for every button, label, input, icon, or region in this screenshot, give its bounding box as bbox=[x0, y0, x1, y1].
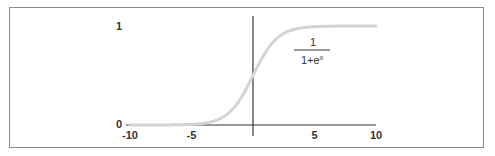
formula-denominator: 1+ex bbox=[301, 54, 324, 66]
x-tick-label-neg5: -5 bbox=[187, 129, 197, 141]
formula-numerator: 1 bbox=[310, 36, 316, 48]
x-tick-label-10: 10 bbox=[370, 129, 382, 141]
x-tick-label-5: 5 bbox=[311, 129, 317, 141]
sigmoid-chart: 0 1 -10 -5 5 10 1 1+ex bbox=[0, 0, 495, 156]
x-tick-label-neg10: -10 bbox=[122, 129, 138, 141]
y-tick-label-1: 1 bbox=[116, 20, 122, 32]
formula-annotation: 1 1+ex bbox=[294, 36, 330, 66]
